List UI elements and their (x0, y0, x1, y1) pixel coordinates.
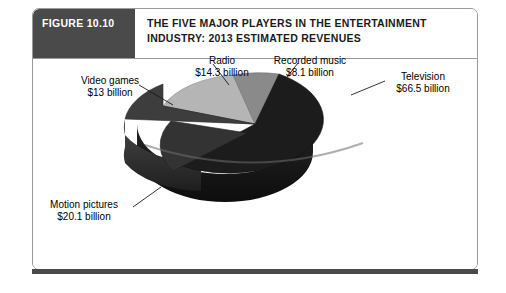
slice-side-video-games (124, 119, 125, 163)
chart-area: Video games $13 billion Radio $14.3 bill… (33, 59, 477, 270)
label-recorded-music-name: Recorded music (255, 55, 365, 67)
figure-title-block: THE FIVE MAJOR PLAYERS IN THE ENTERTAINM… (135, 9, 477, 58)
label-recorded-music: Recorded music $8.1 billion (255, 55, 365, 79)
figure-bottom-rule (32, 269, 478, 274)
label-recorded-music-value: $8.1 billion (255, 67, 365, 79)
label-television-name: Television (373, 71, 473, 83)
label-television-value: $66.5 billion (373, 83, 473, 95)
label-motion-pictures: Motion pictures $20.1 billion (32, 199, 139, 223)
figure-number-badge: FIGURE 10.10 (33, 9, 135, 58)
figure-container: FIGURE 10.10 THE FIVE MAJOR PLAYERS IN T… (32, 8, 478, 270)
figure-title-line-2: INDUSTRY: 2013 ESTIMATED REVENUES (147, 31, 469, 46)
label-motion-pictures-value: $20.1 billion (32, 211, 139, 223)
label-video-games-value: $13 billion (55, 87, 165, 99)
figure-header: FIGURE 10.10 THE FIVE MAJOR PLAYERS IN T… (33, 9, 477, 59)
label-video-games: Video games $13 billion (55, 75, 165, 99)
label-motion-pictures-name: Motion pictures (32, 199, 139, 211)
label-television: Television $66.5 billion (373, 71, 473, 95)
label-video-games-name: Video games (55, 75, 165, 87)
figure-title-line-1: THE FIVE MAJOR PLAYERS IN THE ENTERTAINM… (147, 16, 469, 31)
figure-number-label: FIGURE 10.10 (42, 18, 114, 29)
